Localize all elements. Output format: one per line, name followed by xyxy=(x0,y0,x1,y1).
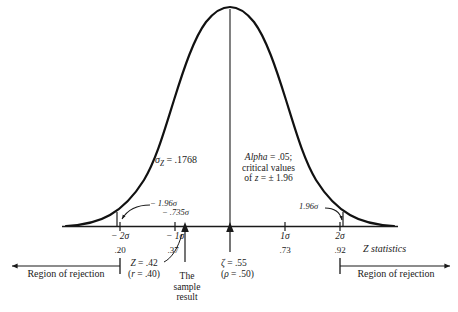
rejection-region-right-label: Region of rejection xyxy=(357,268,434,279)
alpha-line-1: Alpha = .05; xyxy=(242,152,295,163)
tick-label-pos2sigma: 2σ xyxy=(335,231,344,242)
zeta-value: = .55 xyxy=(225,258,247,268)
figure-canvas: σZ = .1768 Alpha = .05; critical values … xyxy=(0,0,458,312)
alpha-word: Alpha xyxy=(245,152,268,162)
positive-critical-callout-label: 1.96σ xyxy=(299,202,318,212)
sample-r-value: = .40) xyxy=(135,269,160,279)
x-axis-label: Z statistics xyxy=(363,243,406,254)
sample-sigma-label: − .735σ xyxy=(162,208,189,218)
sample-result-caption: The sample result xyxy=(174,271,201,303)
sample-result-line1: The xyxy=(174,271,201,282)
sample-z-block: Z = .42 (r = .40) xyxy=(128,258,160,279)
sample-result-line3: result xyxy=(174,292,201,303)
rho-line: (ρ = .50) xyxy=(221,269,254,280)
population-parameter-block: ζ = .55 (ρ = .50) xyxy=(221,258,254,279)
callout-arrow-positive-critical xyxy=(325,208,342,220)
tick-label-neg1sigma: − 1σ xyxy=(166,231,184,242)
sigma-z-label: σZ = .1768 xyxy=(155,154,197,168)
sigma-z-symbol: σZ xyxy=(155,154,164,165)
tick-label-neg2sigma: − 2σ xyxy=(111,231,129,242)
sigma-z-value: = .1768 xyxy=(164,154,197,165)
alpha-of-word: of xyxy=(244,173,254,183)
alpha-crit-values: = ± 1.96 xyxy=(258,173,292,183)
rho-value: = .50) xyxy=(229,269,254,279)
sample-r-line: (r = .40) xyxy=(128,269,160,280)
sample-result-line2: sample xyxy=(174,282,201,293)
rejection-region-left-label: Region of rejection xyxy=(27,268,104,279)
tick-value-neg2sigma: .20 xyxy=(114,245,125,255)
alpha-line-2: critical values xyxy=(242,163,295,174)
alpha-annotation-block: Alpha = .05; critical values of z = ± 1.… xyxy=(242,152,295,184)
sample-z-value: = .42 xyxy=(136,258,158,268)
tick-value-pos2sigma: .92 xyxy=(334,245,345,255)
tick-value-neg1sigma: .37 xyxy=(167,245,178,255)
alpha-value: = .05; xyxy=(268,152,293,162)
sample-z-line: Z = .42 xyxy=(128,258,160,269)
callout-arrow-negative-critical xyxy=(122,205,150,219)
tick-value-pos1sigma: .73 xyxy=(279,245,290,255)
tick-label-pos1sigma: 1σ xyxy=(280,231,289,242)
alpha-line-3: of z = ± 1.96 xyxy=(242,173,295,184)
zeta-line: ζ = .55 xyxy=(221,258,254,269)
